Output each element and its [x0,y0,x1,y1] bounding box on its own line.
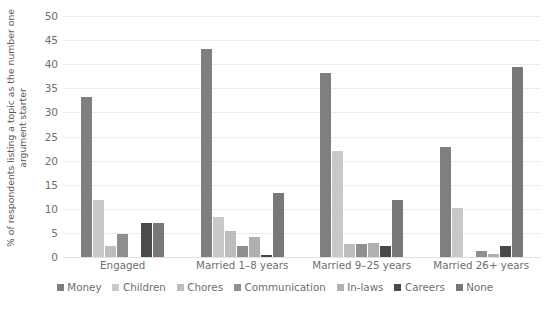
y-axis-tick-label: 30 [30,106,58,118]
bar [225,231,236,257]
bar [392,200,403,257]
y-axis-title: % of respondents listing a topic as the … [0,4,34,252]
bar [141,223,152,257]
legend-swatch-icon [456,284,463,291]
legend-swatch-icon [57,284,64,291]
legend-label: Communication [245,281,326,293]
y-axis-tick-label: 40 [30,58,58,70]
legend-item[interactable]: Children [112,281,165,293]
y-axis-tick-label: 0 [30,251,58,263]
legend-label: Chores [187,281,223,293]
bar [249,237,260,257]
bar-group [183,16,303,257]
bar [344,244,355,257]
legend-item[interactable]: Careers [394,281,444,293]
y-axis-tick-labels: 50454035302520151050 [30,16,58,257]
legend-label: In-laws [347,281,383,293]
bar [368,243,379,257]
x-axis-category-labels: EngagedMarried 1–8 yearsMarried 9–25 yea… [63,259,541,271]
x-axis-category-label: Married 1–8 years [183,259,303,271]
bar [488,254,499,257]
legend-swatch-icon [394,284,401,291]
legend-swatch-icon [234,284,241,291]
bar-chart: % of respondents listing a topic as the … [0,0,550,309]
bar [117,234,128,257]
legend-label: Money [67,281,101,293]
bar [81,97,92,257]
legend-item[interactable]: Money [57,281,102,293]
legend-label: Careers [405,281,445,293]
gridline [63,257,541,258]
y-axis-tick-label: 5 [30,227,58,239]
bar [452,208,463,257]
bar-group [422,16,542,257]
legend-label: Children [123,281,166,293]
bar [213,217,224,257]
bar-group [63,16,183,257]
bar [512,67,523,257]
bar [320,73,331,257]
legend-swatch-icon [177,284,184,291]
legend-label: None [466,281,493,293]
x-axis-category-label: Engaged [63,259,183,271]
bar [105,246,116,257]
bar-group [302,16,422,257]
y-axis-tick-label: 20 [30,155,58,167]
bar [440,147,451,257]
bar [201,49,212,257]
bar [380,246,391,257]
bar [93,200,104,257]
legend-item[interactable]: Chores [177,281,223,293]
x-axis-category-label: Married 26+ years [422,259,542,271]
bar [476,251,487,257]
y-axis-tick-label: 45 [30,34,58,46]
chart-legend: MoneyChildrenChoresCommunicationIn-lawsC… [0,281,550,293]
legend-swatch-icon [337,284,344,291]
y-axis-tick-label: 50 [30,10,58,22]
legend-item[interactable]: In-laws [337,281,384,293]
legend-swatch-icon [112,284,119,291]
bar [153,223,164,257]
legend-item[interactable]: Communication [234,281,326,293]
legend-item[interactable]: None [456,281,493,293]
bar [237,246,248,257]
y-axis-tick-label: 15 [30,179,58,191]
bar [356,244,367,257]
bar [500,246,511,257]
bar [273,193,284,257]
bar-groups [63,16,541,257]
bar [332,151,343,257]
plot-area [63,16,541,257]
y-axis-tick-label: 35 [30,82,58,94]
y-axis-tick-label: 10 [30,203,58,215]
bar [261,255,272,257]
x-axis-category-label: Married 9–25 years [302,259,422,271]
y-axis-tick-label: 25 [30,131,58,143]
